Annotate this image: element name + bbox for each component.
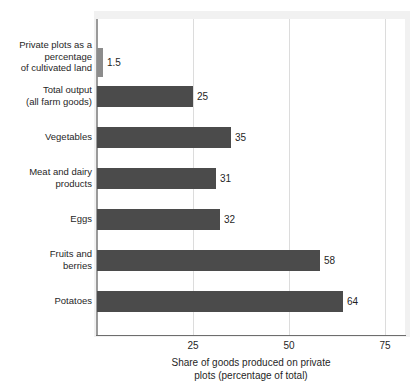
category-label: Potatoes [0,295,92,307]
bar-rect [97,209,220,230]
bar-value-label: 32 [224,215,235,225]
bar-value-label: 31 [220,174,231,184]
bar-rect [97,127,231,148]
bars-layer: Private plots as a percentage of cultiva… [0,0,418,383]
bar-rect [97,291,343,312]
bar-value-label: 35 [235,133,246,143]
category-label: Fruits and berries [0,248,92,271]
category-label: Total output (all farm goods) [0,84,92,107]
category-label: Private plots as a percentage of cultiva… [0,39,92,74]
category-label: Vegetables [0,131,92,143]
category-label: Eggs [0,213,92,225]
bar-value-label: 1.5 [107,58,121,68]
bar-rect [97,168,216,189]
bar-rect [97,86,193,107]
category-label: Meat and dairy products [0,166,92,189]
bar-rect [97,48,103,77]
x-axis-title: Share of goods produced on private plots… [97,357,405,382]
x-tick-label-50: 50 [269,340,309,352]
x-tick-label-75: 75 [365,340,405,352]
bar-value-label: 64 [347,297,358,307]
x-tick-label-25: 25 [173,340,213,352]
bar-chart: Private plots as a percentage of cultiva… [0,0,418,383]
bar-value-label: 58 [324,256,335,266]
bar-value-label: 25 [197,92,208,102]
bar-rect [97,250,320,271]
